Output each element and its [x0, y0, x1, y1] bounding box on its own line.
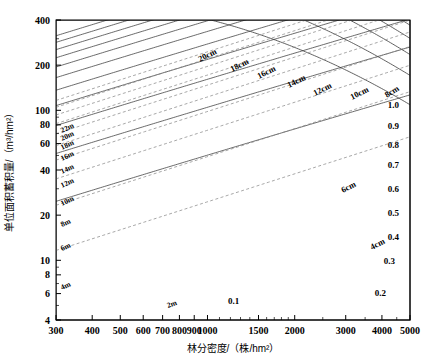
- x-tick-label: 300: [49, 325, 64, 336]
- y-tick-label: 60: [40, 138, 50, 149]
- y-tick-label: 20: [40, 210, 50, 221]
- x-tick-label: 700: [155, 325, 170, 336]
- y-axis-label: 单位面积蓄积量/（m³/hm²）: [3, 108, 15, 232]
- y-tick-label: 80: [40, 119, 50, 130]
- x-tick-label: 600: [136, 325, 151, 336]
- density-index-label: 0.6: [388, 184, 400, 194]
- y-tick-label: 8: [45, 269, 50, 280]
- density-index-label: 0.2: [375, 288, 387, 298]
- x-tick-label: 500: [113, 325, 128, 336]
- y-tick-label: 100: [35, 105, 50, 116]
- density-index-label: 0.3: [384, 256, 396, 266]
- density-index-label: 0.5: [388, 208, 400, 218]
- x-tick-label: 800: [172, 325, 187, 336]
- x-tick-label: 400: [85, 325, 100, 336]
- density-index-label: 0.9: [388, 121, 400, 131]
- density-index-label: 0.1: [228, 296, 240, 306]
- x-axis-label: 林分密度/（株/hm²）: [187, 342, 280, 354]
- y-tick-label: 6: [45, 288, 50, 299]
- stand-density-management-diagram: 22m20m18m16m14m12m10m8m6m4m2m20cm18cm16c…: [0, 0, 428, 362]
- x-tick-label: 3000: [336, 325, 356, 336]
- x-tick-label: 1000: [197, 325, 217, 336]
- chart-canvas: 22m20m18m16m14m12m10m8m6m4m2m20cm18cm16c…: [0, 0, 428, 362]
- density-index-label: 0.7: [388, 160, 400, 170]
- x-tick-label: 5000: [400, 325, 420, 336]
- x-tick-label: 4000: [372, 325, 392, 336]
- y-tick-label: 200: [35, 60, 50, 71]
- density-index-label: 0.8: [388, 140, 400, 150]
- x-tick-label: 1500: [249, 325, 269, 336]
- y-tick-label: 10: [40, 255, 50, 266]
- x-tick-label: 2000: [285, 325, 305, 336]
- y-tick-label: 40: [40, 165, 50, 176]
- y-tick-label: 4: [45, 315, 50, 326]
- y-tick-label: 400: [35, 15, 50, 26]
- density-index-label: 1.0: [388, 100, 400, 110]
- density-index-label: 0.4: [388, 232, 400, 242]
